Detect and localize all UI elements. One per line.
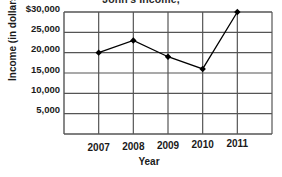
y-axis-tick-labels: $30,00025,00020,00015,00010,0005,000 [12, 8, 60, 132]
data-point-2011 [234, 9, 240, 15]
data-point-2009 [165, 54, 171, 60]
data-series-income [64, 12, 272, 134]
data-point-2007 [95, 49, 101, 55]
line-chart: John's Income, Income (in dollars) $30,0… [0, 0, 282, 177]
x-tick-label-2011: 2011 [217, 138, 257, 150]
x-axis-title: Year [64, 156, 234, 168]
y-tick-label-10000: 10,000 [12, 85, 60, 94]
y-tick-label-5000: 5,000 [12, 105, 60, 114]
data-point-2008 [130, 37, 136, 43]
y-tick-label-20000: 20,000 [12, 44, 60, 53]
y-tick-label-30000: $30,000 [12, 4, 60, 13]
y-tick-label-25000: 25,000 [12, 24, 60, 33]
x-axis-tick-labels: 20072008200920102011 [64, 139, 279, 153]
plot-area [64, 12, 272, 134]
data-point-2010 [199, 66, 205, 72]
y-tick-label-15000: 15,000 [12, 65, 60, 74]
